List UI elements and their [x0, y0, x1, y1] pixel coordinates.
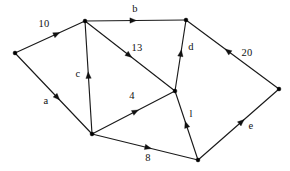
arrowhead-e9: [183, 121, 190, 129]
arrowhead-e11: [144, 144, 152, 151]
arrowhead-e1: [53, 30, 61, 38]
edge-label-e9: l: [189, 109, 192, 120]
node-b-top-middle: [83, 19, 87, 23]
edge-label-e6: 4: [129, 91, 134, 102]
edge-label-e11: 8: [145, 153, 150, 164]
edge-label-e2: b: [132, 4, 137, 15]
node-c-top-right: [184, 18, 188, 22]
edge-label-e3: 13: [132, 43, 143, 54]
edge-label-e7: d: [188, 42, 193, 53]
node-g-bottom-right: [196, 158, 200, 162]
arrowhead-e7: [178, 49, 184, 56]
edges-group: [15, 20, 279, 160]
node-e-center: [173, 89, 177, 93]
graph-figure: 10b13ca4d20le8: [0, 0, 290, 171]
node-a-left: [13, 51, 17, 55]
edge-label-e5: a: [44, 96, 49, 107]
nodes-group: [13, 18, 281, 162]
node-f-bottom-left: [90, 132, 94, 136]
graph-edge-e8: [186, 20, 279, 89]
arrowhead-e4: [85, 72, 91, 79]
arrowheads-group: [53, 18, 246, 151]
edge-label-e4: c: [76, 69, 81, 80]
graph-edge-e1: [15, 21, 85, 53]
arrowhead-e2: [130, 18, 137, 23]
edge-label-e1: 10: [39, 19, 50, 30]
graph-edge-e10: [198, 89, 279, 160]
edge-label-e8: 20: [242, 48, 253, 59]
edge-label-e10: e: [249, 121, 254, 132]
arrowhead-e6: [131, 108, 139, 116]
node-d-right: [277, 87, 281, 91]
graph-edge-e5: [15, 53, 92, 134]
